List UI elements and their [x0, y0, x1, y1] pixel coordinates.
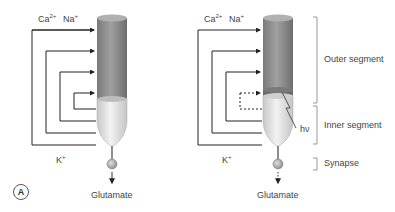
left-na-label: Na+ [63, 13, 78, 24]
right-current-loops [198, 30, 262, 145]
synapse-bracket [313, 158, 317, 170]
left-photoreceptor [97, 15, 127, 184]
synaptic-terminal [107, 159, 117, 169]
outer-segment [263, 15, 293, 97]
synapse-label: Synapse [324, 158, 359, 168]
right-k-label: K+ [222, 154, 232, 165]
na-text: Na [229, 14, 241, 24]
ca-charge: 2+ [216, 13, 223, 19]
right-glutamate-label: Glutamate [257, 190, 299, 200]
outer-segment-bracket [313, 17, 317, 103]
right-ca-label: Ca2+ [204, 13, 222, 24]
panel-label-badge: A [13, 184, 29, 200]
synaptic-terminal [273, 159, 283, 169]
left-current-loops [32, 30, 96, 145]
k-charge: + [228, 154, 232, 160]
inner-segment-label: Inner segment [324, 120, 382, 130]
right-na-label: Na+ [229, 13, 244, 24]
na-charge: + [75, 13, 79, 19]
left-glutamate-label: Glutamate [91, 190, 133, 200]
inner-segment-bracket [313, 106, 317, 144]
hv-label: hν [300, 124, 310, 134]
k-charge: + [62, 154, 66, 160]
left-k-label: K+ [56, 154, 66, 165]
inner-segment [97, 96, 127, 146]
segment-brackets [313, 17, 317, 170]
na-charge: + [241, 13, 245, 19]
ca-text: Ca [204, 14, 216, 24]
ca-text: Ca [38, 14, 50, 24]
outer-segment [97, 15, 127, 100]
outer-segment-label: Outer segment [324, 54, 384, 64]
na-text: Na [63, 14, 75, 24]
left-ca-label: Ca2+ [38, 13, 56, 24]
ca-charge: 2+ [50, 13, 57, 19]
right-photoreceptor [263, 15, 296, 184]
photoreceptor-diagram [0, 0, 395, 212]
inner-segment [263, 93, 293, 146]
